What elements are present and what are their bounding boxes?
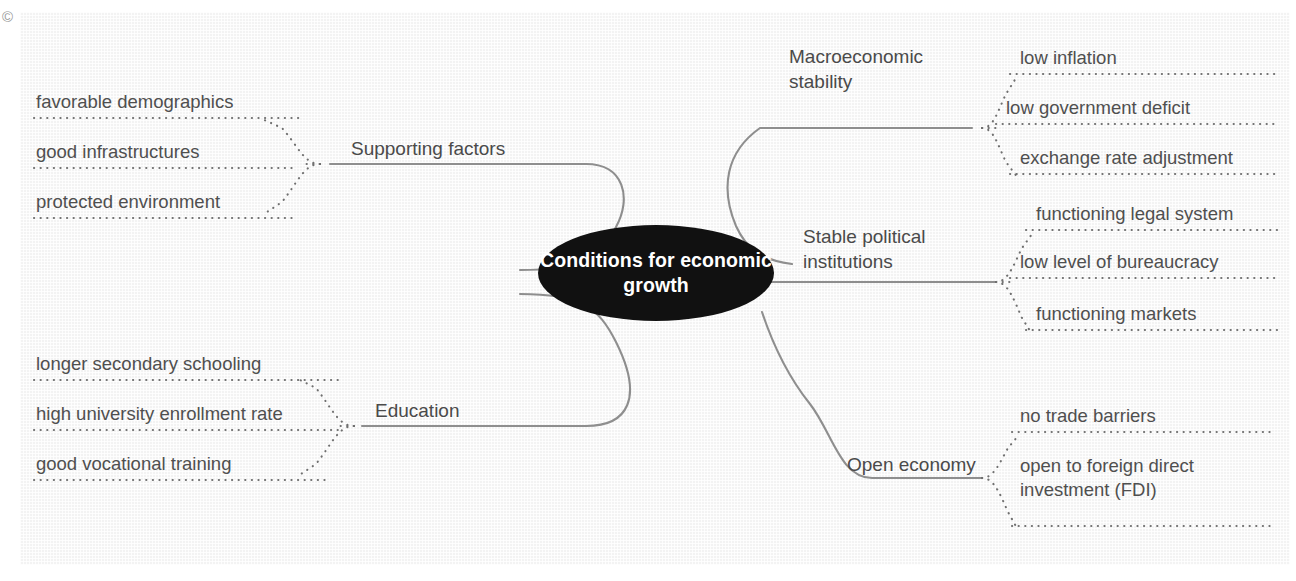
- leaf-functioning-markets: functioning markets: [1036, 302, 1196, 326]
- central-node: Conditions for economic growth: [538, 225, 774, 321]
- leaf-open-to-foreign-direct-investment: open to foreign direct investment (FDI): [1020, 454, 1194, 502]
- branch-label-open-economy: Open economy: [847, 452, 976, 477]
- leaf-exchange-rate-adjustment: exchange rate adjustment: [1020, 146, 1233, 170]
- leaf-functioning-legal-system: functioning legal system: [1036, 202, 1233, 226]
- central-node-label: Conditions for economic growth: [538, 248, 774, 298]
- leaf-high-university-enrollment-rate: high university enrollment rate: [36, 402, 283, 426]
- branch-label-macroeconomic-stability: Macroeconomic stability: [789, 44, 923, 94]
- branch-label-supporting-factors: Supporting factors: [351, 136, 505, 161]
- branch-label-education: Education: [375, 398, 460, 423]
- leaf-protected-environment: protected environment: [36, 190, 220, 214]
- leaf-low-inflation: low inflation: [1020, 46, 1117, 70]
- copyright-icon: ©: [2, 8, 20, 26]
- leaf-good-vocational-training: good vocational training: [36, 452, 231, 476]
- leaf-good-infrastructures: good infrastructures: [36, 140, 200, 164]
- branch-label-stable-political-institutions: Stable political institutions: [803, 224, 926, 274]
- diagram-panel: Conditions for economic growth Supportin…: [20, 12, 1290, 565]
- leaf-low-level-of-bureaucracy: low level of bureaucracy: [1020, 250, 1218, 274]
- leaf-longer-secondary-schooling: longer secondary schooling: [36, 352, 261, 376]
- leaf-no-trade-barriers: no trade barriers: [1020, 404, 1156, 428]
- leaf-favorable-demographics: favorable demographics: [36, 90, 233, 114]
- mindmap-screenshot: ©: [0, 0, 1296, 581]
- leaf-low-government-deficit: low government deficit: [1006, 96, 1190, 120]
